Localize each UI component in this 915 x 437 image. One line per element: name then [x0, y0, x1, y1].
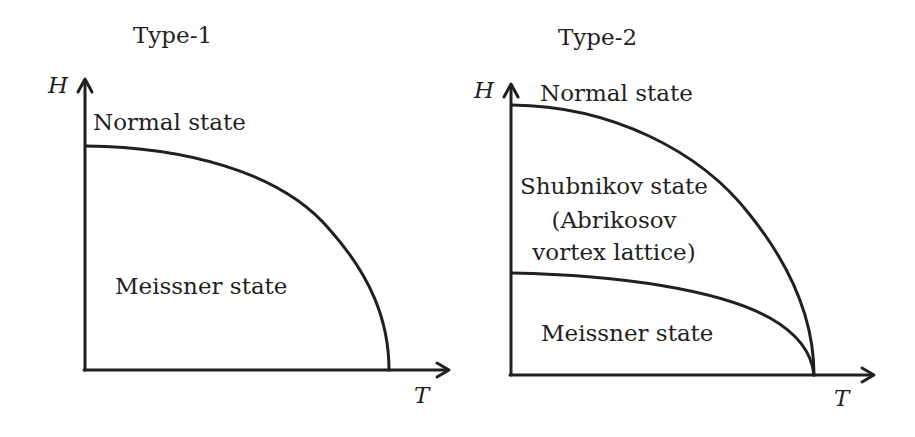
- type1-panel: Type-1 H T Normal state Meissner state: [47, 22, 449, 408]
- type2-y-axis-label: H: [473, 77, 495, 103]
- type1-x-axis-label: T: [414, 382, 431, 408]
- type1-normal-state-label: Normal state: [93, 109, 246, 135]
- type2-shubnikov-state-label: Shubnikov state: [520, 173, 708, 199]
- type2-meissner-state-label: Meissner state: [541, 320, 713, 346]
- type2-panel: Type-2 H T Normal state Shubnikov state …: [473, 24, 874, 411]
- type2-title: Type-2: [558, 24, 637, 50]
- type2-abrikosov-label: (Abrikosov: [551, 207, 676, 233]
- type2-normal-state-label: Normal state: [540, 80, 693, 106]
- type1-meissner-state-label: Meissner state: [115, 273, 287, 299]
- phase-diagram-figure: Type-1 H T Normal state Meissner state T…: [0, 0, 915, 437]
- type1-critical-field-curve: [86, 146, 389, 370]
- type1-title: Type-1: [133, 22, 212, 48]
- type2-vortex-lattice-label: vortex lattice): [531, 239, 695, 265]
- type2-x-axis-label: T: [834, 385, 851, 411]
- type1-y-axis-label: H: [47, 72, 69, 98]
